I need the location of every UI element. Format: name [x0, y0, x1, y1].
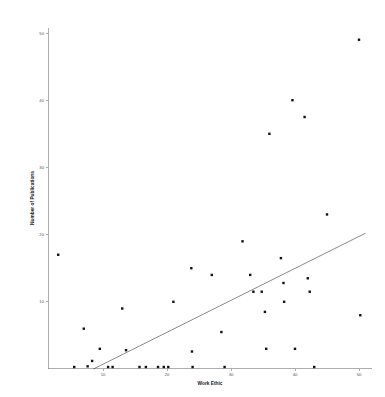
- data-point: [83, 327, 85, 329]
- data-point: [268, 133, 270, 135]
- x-tick-label: 50: [357, 372, 362, 377]
- data-point: [358, 39, 360, 41]
- scatter-plot-canvas: 10203040501020304050 Work Ethic Number o…: [0, 0, 385, 397]
- data-point: [307, 277, 309, 279]
- data-point: [57, 254, 59, 256]
- x-tick-label: 40: [293, 372, 298, 377]
- y-tick-label: 30: [39, 165, 44, 170]
- data-point: [73, 366, 75, 368]
- x-tick-label: 20: [165, 372, 170, 377]
- data-point: [125, 349, 127, 351]
- data-point: [121, 307, 123, 309]
- data-point: [309, 291, 311, 293]
- data-point: [138, 366, 140, 368]
- data-point: [172, 301, 174, 303]
- data-point: [326, 213, 328, 215]
- chart-figure: 10203040501020304050 Work Ethic Number o…: [0, 0, 385, 397]
- data-point: [241, 240, 243, 242]
- x-axis-title: Work Ethic: [198, 381, 223, 386]
- data-point: [111, 366, 113, 368]
- data-point: [211, 274, 213, 276]
- data-point: [91, 360, 93, 362]
- data-point: [157, 366, 159, 368]
- y-tick-label: 50: [39, 31, 44, 36]
- data-point: [283, 301, 285, 303]
- data-point: [86, 365, 88, 367]
- data-point: [107, 366, 109, 368]
- data-point: [282, 282, 284, 284]
- data-point: [191, 366, 193, 368]
- data-point: [264, 311, 266, 313]
- data-point: [261, 291, 263, 293]
- data-point: [163, 366, 165, 368]
- x-tick-label: 30: [229, 372, 234, 377]
- data-point: [191, 350, 193, 352]
- data-point: [249, 274, 251, 276]
- data-point: [280, 257, 282, 259]
- plot-background: [0, 0, 385, 397]
- data-point: [190, 267, 192, 269]
- data-point: [291, 99, 293, 101]
- data-point: [303, 116, 305, 118]
- data-point: [265, 348, 267, 350]
- x-tick-label: 10: [101, 372, 106, 377]
- y-tick-label: 10: [39, 299, 44, 304]
- data-point: [167, 366, 169, 368]
- data-point: [220, 331, 222, 333]
- data-point: [359, 314, 361, 316]
- data-point: [252, 291, 254, 293]
- data-point: [294, 348, 296, 350]
- y-tick-label: 20: [39, 232, 44, 237]
- data-point: [145, 366, 147, 368]
- data-point: [99, 348, 101, 350]
- y-tick-label: 40: [39, 98, 44, 103]
- y-axis-title: Number of Publications: [30, 171, 35, 225]
- data-point: [313, 366, 315, 368]
- data-point: [223, 366, 225, 368]
